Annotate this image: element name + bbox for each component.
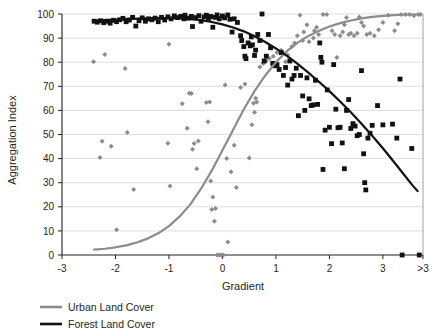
data-point (375, 103, 380, 108)
data-point (185, 126, 190, 131)
data-point (300, 94, 305, 99)
data-point (346, 97, 351, 102)
data-point (311, 102, 316, 107)
data-point (307, 96, 312, 101)
data-point (281, 73, 286, 78)
data-point (235, 20, 240, 25)
data-point (209, 207, 214, 212)
y-tick-label: 10 (43, 226, 55, 237)
data-point (97, 155, 102, 160)
data-point (362, 180, 367, 185)
data-point (285, 83, 290, 88)
data-point (344, 15, 349, 20)
data-point (252, 53, 257, 58)
data-point (363, 188, 368, 193)
data-point (262, 59, 267, 64)
data-point (304, 22, 309, 27)
y-axis-title: Aggregation Index (6, 95, 18, 185)
data-point (194, 166, 199, 171)
data-point (229, 169, 234, 174)
data-point (257, 65, 262, 70)
y-tick-label: 90 (43, 33, 55, 44)
legend-label: Forest Land Cover (68, 318, 155, 330)
data-point (298, 73, 303, 78)
data-point (230, 30, 235, 35)
y-tick-label: 100 (37, 9, 54, 20)
data-point (366, 136, 371, 141)
data-point (100, 139, 105, 144)
y-tick-label: 0 (48, 250, 54, 261)
data-point (317, 41, 322, 46)
data-point (271, 54, 276, 59)
data-point (156, 19, 161, 24)
data-point (260, 12, 265, 17)
data-point (123, 66, 128, 71)
data-point (417, 253, 422, 258)
data-point (353, 124, 358, 129)
x-tick-label: -3 (58, 263, 67, 274)
data-point (283, 59, 288, 64)
data-point (238, 33, 243, 38)
data-point (102, 52, 107, 57)
data-point (305, 75, 310, 80)
data-point (372, 33, 377, 38)
data-point (207, 99, 212, 104)
data-point (311, 36, 316, 41)
data-point (296, 113, 301, 118)
data-point (398, 77, 403, 82)
data-point (109, 144, 114, 149)
data-point (297, 13, 302, 18)
x-tick-label: 2 (327, 263, 333, 274)
data-point (206, 119, 211, 124)
x-tick-label: >3 (417, 263, 429, 274)
y-tick-label: 30 (43, 177, 55, 188)
data-point (357, 132, 362, 137)
data-point (168, 184, 173, 189)
data-point (91, 59, 96, 64)
data-point (409, 146, 414, 151)
data-point (197, 13, 202, 18)
data-point (318, 55, 323, 60)
data-point (334, 55, 339, 60)
x-tick-label: 3 (380, 263, 386, 274)
data-point (390, 122, 395, 127)
data-point (331, 62, 336, 67)
data-point (380, 20, 385, 25)
y-tick-label: 80 (43, 57, 55, 68)
data-point (192, 141, 197, 146)
data-point (228, 17, 233, 22)
data-point (394, 136, 399, 141)
data-point (395, 21, 400, 26)
data-point (180, 101, 185, 106)
data-point (253, 96, 258, 101)
x-tick-label: -1 (165, 263, 174, 274)
data-point (338, 33, 343, 38)
data-point (190, 147, 195, 152)
data-point (307, 39, 312, 44)
series-forest-trendline (94, 18, 418, 191)
data-point (400, 253, 405, 258)
data-point (133, 24, 138, 29)
data-point (376, 27, 381, 32)
data-point (232, 143, 237, 148)
data-point (234, 185, 239, 190)
trend-line (94, 18, 418, 191)
scatter-plot-svg: 0102030405060708090100 -3-2-10123>3 Aggr… (0, 0, 445, 336)
x-tick-labels: -3-2-10123>3 (58, 263, 430, 274)
legend-label: Urban Land Cover (68, 301, 154, 313)
data-point (324, 12, 329, 17)
legend: Urban Land CoverForest Land Cover (40, 301, 155, 330)
x-tick-label: 0 (220, 263, 226, 274)
x-axis-title: Gradient (222, 280, 264, 292)
data-point (392, 28, 397, 33)
data-point (361, 151, 366, 156)
data-point (190, 24, 195, 29)
data-point (253, 48, 258, 53)
data-point (249, 122, 254, 127)
data-point (242, 81, 247, 86)
data-point (212, 219, 217, 224)
data-point (247, 156, 252, 161)
data-point (294, 66, 299, 71)
y-tick-label: 70 (43, 81, 55, 92)
data-point (277, 67, 282, 72)
